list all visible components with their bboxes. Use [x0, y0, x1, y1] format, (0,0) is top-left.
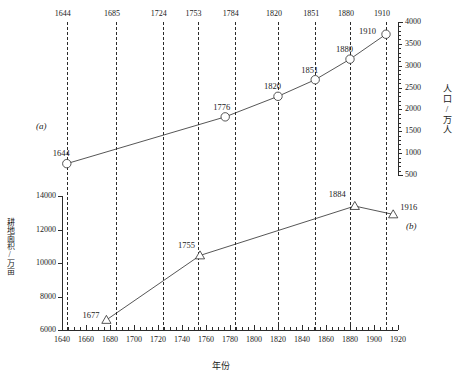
panel-a-tick	[398, 66, 402, 67]
panel-a-minor-tick	[398, 83, 401, 84]
x-minor-tick	[146, 327, 147, 330]
x-tick-label: 1780	[219, 336, 241, 344]
panel-a-minor-tick	[398, 171, 401, 172]
x-minor-tick	[212, 327, 213, 330]
x-major-tick	[278, 325, 279, 330]
x-minor-tick	[152, 327, 153, 330]
data-point-triangle-marker	[389, 210, 398, 218]
panel-a-point-label: 1820	[264, 82, 281, 91]
x-major-tick	[158, 325, 159, 330]
panel-b-point-label: 1884	[329, 190, 346, 199]
x-tick-label: 1740	[171, 336, 193, 344]
x-major-tick	[62, 325, 63, 330]
reference-year-label: 1880	[338, 10, 354, 18]
x-minor-tick	[290, 327, 291, 330]
x-minor-tick	[170, 327, 171, 330]
x-minor-tick	[116, 327, 117, 330]
panel-a-tick	[398, 153, 402, 154]
panel-b-axis-title: 耕地面积/万亩	[4, 218, 15, 275]
panel-a-point-label: 1880	[336, 45, 353, 54]
x-major-tick	[398, 325, 399, 330]
panel-a-tick	[398, 44, 402, 45]
x-minor-tick	[314, 327, 315, 330]
panel-a-tick	[398, 88, 402, 89]
x-major-tick	[134, 325, 135, 330]
x-minor-tick	[80, 327, 81, 330]
x-major-tick	[182, 325, 183, 330]
reference-line	[386, 22, 387, 330]
x-major-tick	[326, 325, 327, 330]
x-minor-tick	[194, 327, 195, 330]
x-minor-tick	[386, 327, 387, 330]
x-minor-tick	[368, 327, 369, 330]
panel-b-tick	[58, 297, 62, 298]
figure-canvas: 164416851724175317841820185118801910 400…	[0, 0, 464, 378]
x-major-tick	[350, 325, 351, 330]
x-minor-tick	[242, 327, 243, 330]
x-minor-tick	[362, 327, 363, 330]
panel-a-tick-label: 1500	[405, 127, 421, 135]
x-tick-label: 1700	[123, 336, 145, 344]
panel-a-axis-title: 人口/万人	[441, 84, 454, 135]
panel-a-tick	[398, 175, 402, 176]
x-minor-tick	[380, 327, 381, 330]
x-minor-tick	[224, 327, 225, 330]
panel-a-minor-tick	[398, 101, 401, 102]
x-minor-tick	[236, 327, 237, 330]
panel-b-tick-label: 12000	[24, 226, 56, 234]
panel-a-minor-tick	[398, 92, 401, 93]
panel-b-tick-label: 6000	[24, 326, 56, 334]
panel-a-minor-tick	[398, 123, 401, 124]
panel-a-minor-tick	[398, 149, 401, 150]
series-overlay	[0, 0, 464, 378]
reference-year-label: 1851	[303, 10, 319, 18]
x-minor-tick	[332, 327, 333, 330]
x-major-tick	[230, 325, 231, 330]
reference-year-label: 1753	[186, 10, 202, 18]
panel-a-minor-tick	[398, 57, 401, 58]
x-tick-label: 1680	[99, 336, 121, 344]
panel-a-minor-tick	[398, 26, 401, 27]
panel-a-minor-tick	[398, 127, 401, 128]
panel-a-point-label: 1851	[301, 66, 318, 75]
reference-year-label: 1820	[266, 10, 282, 18]
panel-b-point-label: 1916	[400, 203, 417, 212]
x-tick-label: 1720	[147, 336, 169, 344]
reference-year-label: 1644	[55, 10, 71, 18]
x-minor-tick	[188, 327, 189, 330]
panel-b-tick	[58, 263, 62, 264]
panel-a-minor-tick	[398, 144, 401, 145]
panel-a-tick-label: 500	[405, 171, 417, 179]
panel-b-point-label: 1677	[82, 311, 99, 320]
x-minor-tick	[296, 327, 297, 330]
reference-year-label: 1685	[104, 10, 120, 18]
panel-b-tick-label: 10000	[24, 259, 56, 267]
panel-a-tick-label: 1000	[405, 149, 421, 157]
x-minor-tick	[92, 327, 93, 330]
panel-a-minor-tick	[398, 118, 401, 119]
panel-a-point-label: 1644	[53, 149, 70, 158]
x-minor-tick	[344, 327, 345, 330]
reference-line	[278, 22, 279, 330]
reference-year-label: 1784	[223, 10, 239, 18]
panel-b-tick	[58, 330, 62, 331]
x-tick-label: 1820	[267, 336, 289, 344]
panel-a-tick	[398, 22, 402, 23]
x-minor-tick	[272, 327, 273, 330]
x-minor-tick	[308, 327, 309, 330]
x-major-tick	[302, 325, 303, 330]
x-minor-tick	[200, 327, 201, 330]
x-minor-tick	[284, 327, 285, 330]
x-minor-tick	[338, 327, 339, 330]
panel-a-label: (a)	[36, 122, 47, 131]
x-minor-tick	[164, 327, 165, 330]
panel-b-tick	[58, 196, 62, 197]
panel-a-minor-tick	[398, 31, 401, 32]
reference-line	[350, 22, 351, 330]
data-point-circle-marker	[221, 113, 229, 121]
reference-line	[163, 22, 164, 330]
panel-b-tick	[58, 230, 62, 231]
x-minor-tick	[218, 327, 219, 330]
panel-b-bottom-axis	[62, 330, 398, 331]
x-minor-tick	[392, 327, 393, 330]
